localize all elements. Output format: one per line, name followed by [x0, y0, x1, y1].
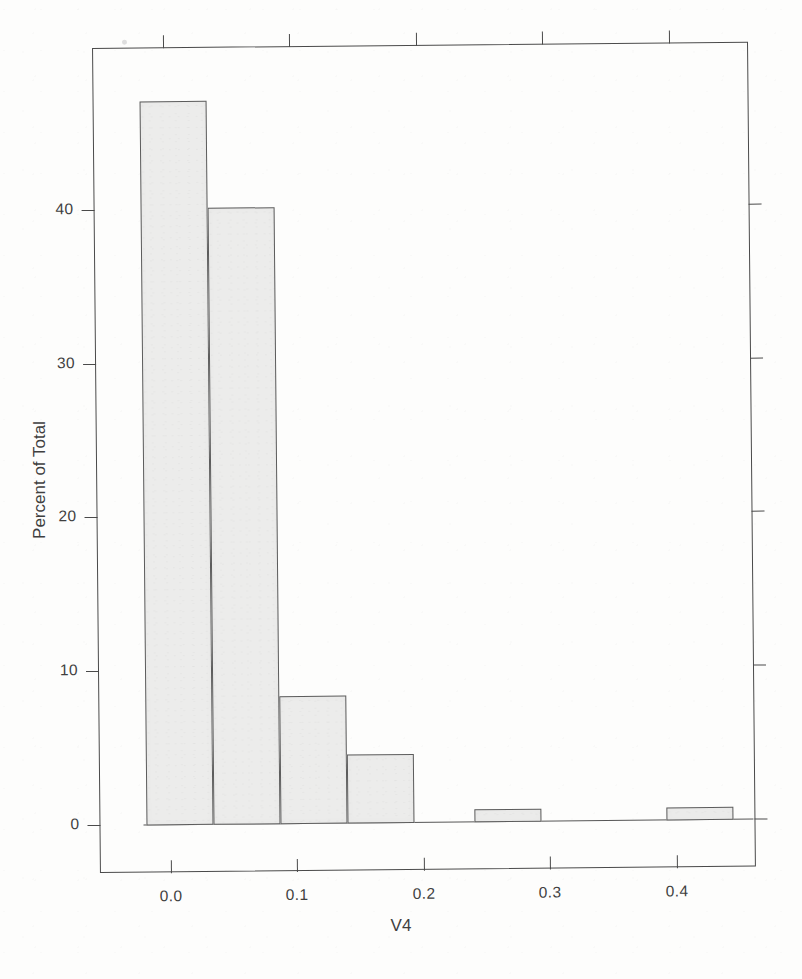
- y-tick-right-40: [749, 204, 762, 205]
- y-tick-40: [82, 210, 95, 211]
- histogram-bar-4: [347, 754, 415, 824]
- y-tick-right-10: [753, 664, 766, 665]
- y-tick-label-0: 0: [31, 815, 79, 833]
- histogram-bar-1: [140, 101, 214, 826]
- x-tick-top-0: [163, 35, 164, 48]
- histogram-bar-5: [474, 809, 541, 823]
- x-tick-label-2: 0.2: [389, 884, 459, 903]
- x-tick-label-3: 0.3: [515, 883, 585, 902]
- x-tick-label-0: 0.0: [136, 887, 206, 906]
- plot-skew-wrapper: 0 10 20 30 40 0.0 0.1 0.2 0.3 0.4: [0, 0, 802, 979]
- x-tick-3: [550, 857, 551, 870]
- x-tick-top-4: [669, 30, 670, 43]
- x-tick-label-1: 0.1: [262, 886, 332, 905]
- histogram-figure: 0 10 20 30 40 0.0 0.1 0.2 0.3 0.4 V4 Per…: [0, 0, 802, 979]
- y-tick-right-20: [752, 511, 765, 512]
- y-tick-30: [83, 364, 96, 365]
- x-tick-0: [171, 860, 172, 873]
- x-tick-1: [297, 859, 298, 872]
- y-tick-label-10: 10: [30, 661, 78, 679]
- y-tick-right-0: [754, 818, 767, 819]
- x-tick-4: [677, 855, 678, 868]
- histogram-bar-2: [208, 207, 281, 825]
- histogram-bar-6: [666, 807, 733, 821]
- y-tick-0: [87, 825, 100, 826]
- y-tick-right-30: [750, 358, 763, 359]
- x-tick-2: [424, 858, 425, 871]
- y-tick-20: [85, 517, 98, 518]
- y-tick-label-30: 30: [27, 354, 75, 372]
- x-tick-top-1: [289, 34, 290, 47]
- x-tick-top-3: [542, 32, 543, 45]
- x-tick-top-2: [416, 33, 417, 46]
- scan-speck-artifact: [122, 40, 127, 45]
- x-tick-label-4: 0.4: [642, 882, 712, 901]
- histogram-bar-3: [279, 696, 347, 825]
- y-axis-title: Percent of Total: [30, 380, 50, 580]
- x-axis-title: V4: [0, 916, 802, 936]
- y-tick-label-40: 40: [25, 200, 73, 218]
- y-tick-10: [86, 671, 99, 672]
